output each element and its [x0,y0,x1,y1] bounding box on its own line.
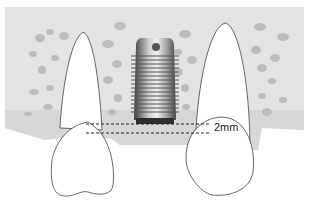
implant-hole [152,43,160,51]
implant [131,38,179,124]
measurement-label: 2mm [214,122,238,133]
implant-diagram [0,0,309,202]
